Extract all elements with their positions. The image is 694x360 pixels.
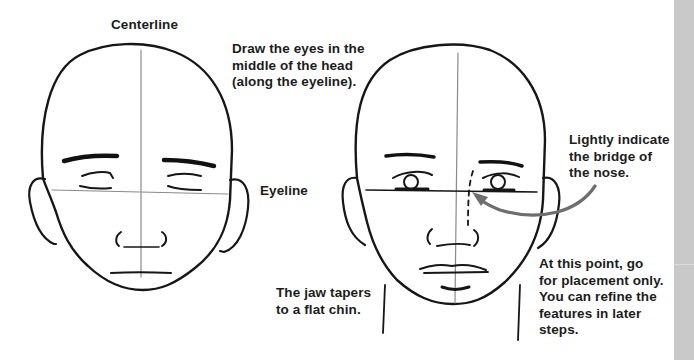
nose-bridge-dashed bbox=[468, 171, 473, 225]
page-edge-strip bbox=[674, 0, 694, 360]
neck-left bbox=[383, 285, 385, 333]
label-jaw: The jaw tapers to a flat chin. bbox=[276, 285, 371, 318]
neck-right bbox=[518, 285, 520, 340]
head-outline-left bbox=[42, 44, 232, 290]
eye-lid-left-1 bbox=[82, 172, 113, 178]
label-placement: At this point, go for placement only. Yo… bbox=[539, 256, 664, 339]
label-eyeline: Eyeline bbox=[260, 183, 308, 200]
nose-right-base bbox=[437, 244, 470, 246]
head-right bbox=[343, 45, 560, 340]
eye-lid-left-2 bbox=[168, 174, 201, 176]
ear-left-1 bbox=[29, 178, 56, 244]
eyebrow-left-2 bbox=[164, 160, 214, 166]
iris-right-2 bbox=[491, 175, 505, 189]
label-centerline: Centerline bbox=[111, 17, 178, 34]
mouth-left bbox=[111, 272, 171, 273]
head-left bbox=[29, 44, 248, 290]
iris-right-1 bbox=[404, 175, 418, 189]
ear-left-2 bbox=[220, 179, 248, 252]
eye-closed-left-2 bbox=[168, 186, 201, 190]
label-eyes-middle: Draw the eyes in the middle of the head … bbox=[232, 41, 365, 91]
label-bridge: Lightly indicate the bridge of the nose. bbox=[569, 132, 670, 182]
eyebrow-right-2 bbox=[480, 162, 522, 166]
nose-left-wing-2 bbox=[162, 232, 166, 246]
ear-right-1 bbox=[343, 178, 365, 245]
nose-left-wing-1 bbox=[116, 232, 121, 246]
eye-closed-left-1 bbox=[80, 186, 111, 189]
nose-right-wing-1 bbox=[428, 229, 432, 244]
lip-line bbox=[424, 272, 488, 273]
lip-upper bbox=[420, 265, 486, 270]
page-edge-seam bbox=[674, 264, 694, 265]
eyebrow-left-1 bbox=[64, 156, 117, 161]
nose-right-wing-2 bbox=[474, 230, 478, 246]
eyebrow-right-1 bbox=[386, 155, 434, 157]
figure-canvas: Centerline Draw the eyes in the middle o… bbox=[0, 0, 694, 360]
